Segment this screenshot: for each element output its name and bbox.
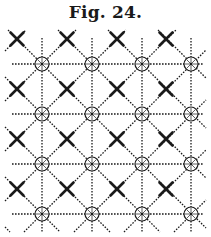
circle-center-dot	[141, 113, 143, 115]
circle-center-dot	[141, 163, 143, 165]
circle-center-dot	[141, 63, 143, 65]
circle-center-dot	[41, 213, 43, 215]
circle-center-dot	[91, 63, 93, 65]
circle-center-dot	[91, 213, 93, 215]
circle-center-dot	[190, 113, 192, 115]
diagonal-line	[58, 30, 206, 178]
circle-center-dot	[41, 63, 43, 65]
diagonal-line	[5, 227, 10, 232]
circle-center-dot	[190, 163, 192, 165]
circle-center-dot	[190, 213, 192, 215]
circle-center-dot	[41, 113, 43, 115]
circle-center-dot	[41, 163, 43, 165]
circle-center-dot	[190, 63, 192, 65]
lattice-diagram	[0, 0, 211, 237]
circle-center-dot	[141, 213, 143, 215]
circle-center-dot	[91, 113, 93, 115]
circle-center-dot	[91, 163, 93, 165]
